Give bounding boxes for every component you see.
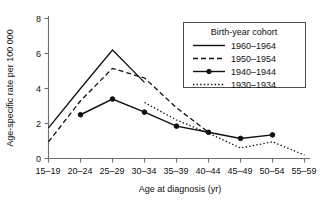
y-tick-label-0: 0	[36, 154, 41, 164]
data-point-marker	[238, 136, 243, 141]
x-tick-label-15-19: 15–19	[35, 166, 60, 176]
y-axis-title: Age-specific rate per 100 000	[5, 29, 15, 147]
legend-label-1930-1934: 1930–1934	[231, 80, 276, 90]
x-axis-title: Age at diagnosis (yr)	[139, 184, 222, 194]
y-tick-label-8: 8	[36, 14, 41, 24]
legend-swatch-marker-dot-icon	[207, 69, 211, 73]
x-tick-label-40-44: 40–44	[195, 166, 220, 176]
x-tick-label-45-49: 45–49	[227, 166, 252, 176]
y-tick-label-6: 6	[36, 49, 41, 59]
y-tick-label-2: 2	[36, 119, 41, 129]
data-point-marker	[110, 97, 115, 102]
data-point-marker	[142, 110, 147, 115]
data-point-marker	[174, 124, 179, 129]
data-point-marker	[78, 112, 83, 117]
age-specific-rate-line-chart: 0 2 4 6 8 15–19 20–24 25–29 30–34 35–39 …	[0, 0, 326, 201]
data-point-marker	[270, 133, 275, 138]
legend-title: Birth-year cohort	[211, 27, 278, 37]
legend-label-1950-1954: 1950–1954	[231, 54, 276, 64]
legend-label-1960-1964: 1960–1964	[231, 41, 276, 51]
x-tick-label-55-59: 55–59	[291, 166, 316, 176]
legend: Birth-year cohort 1960–1964 1950–1954 19…	[184, 23, 306, 91]
x-axis-tick-labels: 15–19 20–24 25–29 30–34 35–39 40–44 45–4…	[35, 166, 316, 176]
legend-label-1940-1944: 1940–1944	[231, 67, 276, 77]
x-tick-label-50-54: 50–54	[259, 166, 284, 176]
x-tick-label-30-34: 30–34	[131, 166, 156, 176]
x-tick-label-25-29: 25–29	[99, 166, 124, 176]
x-tick-label-20-24: 20–24	[67, 166, 92, 176]
x-tick-label-35-39: 35–39	[163, 166, 188, 176]
y-tick-label-4: 4	[36, 84, 41, 94]
